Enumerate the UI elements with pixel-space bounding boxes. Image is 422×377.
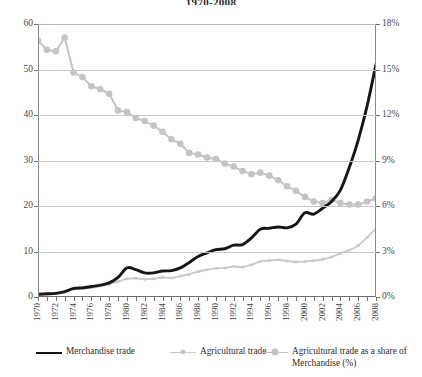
y-axis-right-tick-label: 15% xyxy=(382,65,399,74)
x-axis-tick-label: 1988 xyxy=(193,303,202,321)
y-axis-left-tick xyxy=(34,115,38,116)
x-axis-tick xyxy=(269,297,270,301)
x-axis-tick xyxy=(332,297,333,301)
legend-item-agricultural-share[interactable]: Agricultural trade as a share of Merchan… xyxy=(262,346,412,369)
x-axis-tick xyxy=(207,297,208,301)
legend-label: Agricultural trade xyxy=(200,346,266,358)
y-axis-right-tick xyxy=(376,70,380,71)
chart-title: 1970-2008 xyxy=(0,0,422,5)
x-axis-tick xyxy=(340,297,341,301)
x-axis-tick xyxy=(109,297,110,301)
x-axis-tick xyxy=(189,297,190,301)
x-axis-tick-label: 1982 xyxy=(140,303,149,321)
x-axis-tick xyxy=(216,297,217,301)
x-axis-tick xyxy=(74,297,75,301)
y-axis-left-tick xyxy=(34,161,38,162)
x-axis-tick-label: 1974 xyxy=(69,303,78,321)
gridline xyxy=(38,252,376,253)
y-axis-left-tick xyxy=(34,206,38,207)
x-axis-tick-label: 1998 xyxy=(282,303,291,321)
x-axis-tick xyxy=(296,297,297,301)
plot-area: 0102030405060 0%3%6%9%12%15%18% 19701972… xyxy=(38,24,376,297)
x-axis-tick xyxy=(91,297,92,301)
y-axis-right-tick-label: 18% xyxy=(382,19,399,28)
legend-label: Agricultural trade as a share of Merchan… xyxy=(292,346,412,369)
gridline xyxy=(38,206,376,207)
x-axis-tick xyxy=(358,297,359,301)
chart-root: 1970-2008 0102030405060 0%3%6%9%12%15%18… xyxy=(0,0,422,377)
y-axis-left-tick-label: 50 xyxy=(24,65,34,74)
x-axis-tick-label: 1994 xyxy=(246,303,255,321)
legend-swatch-line-dot-small-icon xyxy=(170,347,196,357)
x-axis-tick xyxy=(65,297,66,301)
x-axis-tick xyxy=(82,297,83,301)
y-axis-right-tick xyxy=(376,252,380,253)
x-axis-tick xyxy=(136,297,137,301)
x-axis-tick xyxy=(171,297,172,301)
x-axis-tick-label: 1980 xyxy=(122,303,131,321)
y-axis-right-tick xyxy=(376,24,380,25)
x-axis-tick-label: 1976 xyxy=(86,303,95,321)
y-axis-right-tick-label: 3% xyxy=(382,247,395,256)
x-axis-tick-label: 2006 xyxy=(353,303,362,321)
x-axis-tick xyxy=(305,297,306,301)
x-axis-tick-label: 1992 xyxy=(229,303,238,321)
x-axis-tick xyxy=(260,297,261,301)
x-axis-tick xyxy=(38,297,39,301)
x-axis-tick xyxy=(198,297,199,301)
legend-item-merchandise-trade[interactable]: Merchandise trade xyxy=(36,346,135,358)
x-axis-tick-label: 2000 xyxy=(300,303,309,321)
x-axis-tick xyxy=(323,297,324,301)
x-axis-tick-label: 2002 xyxy=(318,303,327,321)
x-axis-tick xyxy=(180,297,181,301)
y-axis-right-tick xyxy=(376,115,380,116)
gridline xyxy=(38,161,376,162)
y-axis-left-tick-label: 60 xyxy=(24,19,34,28)
x-axis-tick xyxy=(243,297,244,301)
x-axis-tick xyxy=(118,297,119,301)
y-axis-left-tick-label: 30 xyxy=(24,156,34,165)
x-axis-tick xyxy=(278,297,279,301)
x-axis-tick-label: 2008 xyxy=(371,303,380,321)
y-axis-left-tick-label: 20 xyxy=(24,201,34,210)
legend-label: Merchandise trade xyxy=(66,346,135,358)
x-axis-tick xyxy=(225,297,226,301)
legend-swatch-line-icon xyxy=(36,347,62,357)
x-axis-tick xyxy=(349,297,350,301)
x-axis-tick-label: 1972 xyxy=(51,303,60,321)
x-axis-tick xyxy=(47,297,48,301)
x-axis-tick xyxy=(314,297,315,301)
x-axis-tick xyxy=(234,297,235,301)
x-axis-tick xyxy=(376,297,377,301)
x-axis-tick xyxy=(287,297,288,301)
x-axis-tick xyxy=(251,297,252,301)
legend-swatch-line-dot-icon xyxy=(262,347,288,357)
x-axis-tick xyxy=(145,297,146,301)
y-axis-right-tick xyxy=(376,161,380,162)
x-axis-tick-label: 1984 xyxy=(158,303,167,321)
x-axis-tick xyxy=(367,297,368,301)
y-axis-left-tick xyxy=(34,24,38,25)
y-axis-right-tick-label: 0% xyxy=(382,292,395,301)
x-axis-tick xyxy=(163,297,164,301)
gridline xyxy=(38,115,376,116)
y-axis-right-tick-label: 12% xyxy=(382,110,399,119)
legend-item-agricultural-trade[interactable]: Agricultural trade xyxy=(170,346,266,358)
y-axis-right-tick-label: 6% xyxy=(382,201,395,210)
x-axis-tick xyxy=(56,297,57,301)
x-axis-tick-label: 1986 xyxy=(175,303,184,321)
y-axis-left-tick-label: 10 xyxy=(24,247,34,256)
x-axis-tick xyxy=(127,297,128,301)
y-axis-left-tick xyxy=(34,70,38,71)
y-axis-left-tick xyxy=(34,252,38,253)
y-axis-left-tick-label: 0 xyxy=(28,292,33,301)
x-axis-tick-label: 1970 xyxy=(33,303,42,321)
y-axis-left-tick-label: 40 xyxy=(24,110,34,119)
chart-legend: Merchandise tradeAgricultural tradeAgric… xyxy=(0,344,422,377)
gridline xyxy=(38,70,376,71)
x-axis-tick xyxy=(154,297,155,301)
x-axis-tick-label: 2004 xyxy=(335,303,344,321)
y-axis-right-tick xyxy=(376,206,380,207)
y-axis-right-tick-label: 9% xyxy=(382,156,395,165)
x-axis-tick-label: 1978 xyxy=(104,303,113,321)
